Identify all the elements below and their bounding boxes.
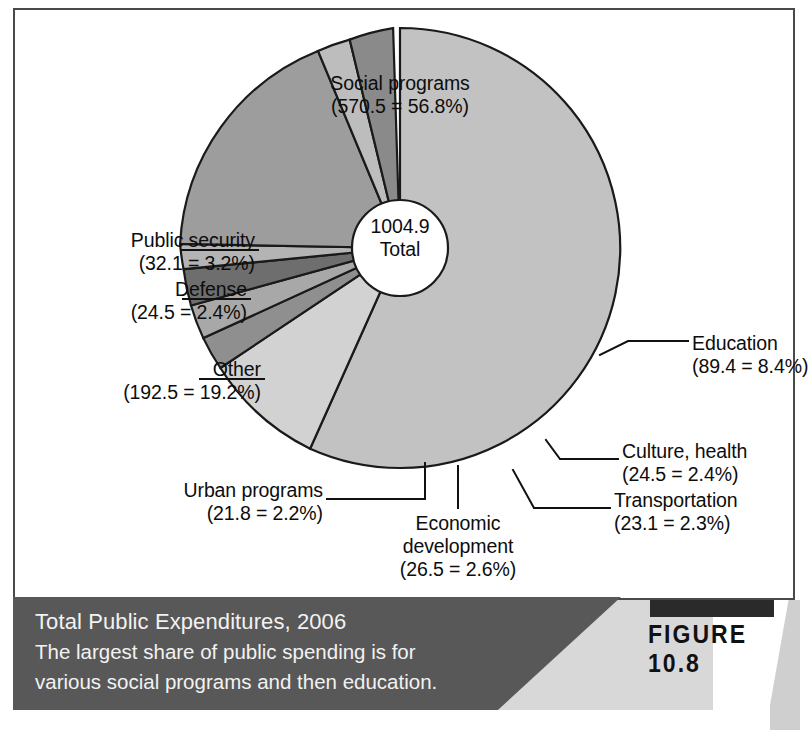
label-economic-development-name1: Economic xyxy=(370,512,546,535)
label-culture-health-name: Culture, health xyxy=(622,440,809,463)
caption-line-2: various social programs and then educati… xyxy=(35,667,437,697)
label-economic-development-value: (26.5 = 2.6%) xyxy=(370,558,546,581)
center-total-value: 1004.9 xyxy=(340,215,460,238)
label-other-name: Other xyxy=(10,358,261,381)
figure-tag-label: FIGURE 10.8 xyxy=(648,620,786,678)
label-defense-value: (24.5 = 2.4%) xyxy=(10,301,247,324)
leader-education xyxy=(600,341,688,355)
label-education-name: Education xyxy=(692,332,809,355)
label-urban-programs-value: (21.8 = 2.2%) xyxy=(70,502,323,525)
label-urban-programs-name: Urban programs xyxy=(70,479,323,502)
label-urban-programs: Urban programs (21.8 = 2.2%) xyxy=(70,479,323,525)
label-education: Education (89.4 = 8.4%) xyxy=(692,332,809,378)
caption-text: Total Public Expenditures, 2006 The larg… xyxy=(35,606,437,697)
label-public-security-name: Public security xyxy=(10,229,255,252)
caption-title: Total Public Expenditures, 2006 xyxy=(35,606,437,637)
label-education-value: (89.4 = 8.4%) xyxy=(692,355,809,378)
leader-transportation xyxy=(513,470,610,508)
label-other-value: (192.5 = 19.2%) xyxy=(10,381,261,404)
label-social-programs: Social programs (570.5 = 56.8%) xyxy=(280,72,520,118)
label-social-programs-name: Social programs xyxy=(280,72,520,95)
label-other: Other (192.5 = 19.2%) xyxy=(10,358,261,404)
label-culture-health: Culture, health (24.5 = 2.4%) xyxy=(622,440,809,486)
pie-chart-area: 1004.9 Total Social programs (570.5 = 56… xyxy=(0,0,809,600)
figure-tag: FIGURE 10.8 xyxy=(648,600,798,678)
label-transportation-name: Transportation xyxy=(614,489,804,512)
center-total: 1004.9 Total xyxy=(340,215,460,261)
label-public-security-value: (32.1 = 3.2%) xyxy=(10,252,255,275)
label-defense-name: Defense xyxy=(10,278,247,301)
label-economic-development: Economic development (26.5 = 2.6%) xyxy=(370,512,546,581)
label-social-programs-value: (570.5 = 56.8%) xyxy=(280,95,520,118)
leader-culture-health xyxy=(546,440,618,459)
center-total-label: Total xyxy=(340,238,460,261)
figure-tag-bar xyxy=(650,600,774,617)
label-defense: Defense (24.5 = 2.4%) xyxy=(10,278,247,324)
caption-line-1: The largest share of public spending is … xyxy=(35,637,437,667)
label-public-security: Public security (32.1 = 3.2%) xyxy=(10,229,255,275)
label-transportation: Transportation (23.1 = 2.3%) xyxy=(614,489,804,535)
label-economic-development-name2: development xyxy=(370,535,546,558)
label-culture-health-value: (24.5 = 2.4%) xyxy=(622,463,809,486)
label-transportation-value: (23.1 = 2.3%) xyxy=(614,512,804,535)
